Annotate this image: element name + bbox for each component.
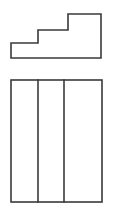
figure-canvas xyxy=(0,0,123,209)
panel-rectangle-outline xyxy=(11,80,102,202)
staircase-outline xyxy=(11,14,101,58)
line-drawing-svg xyxy=(0,0,123,209)
